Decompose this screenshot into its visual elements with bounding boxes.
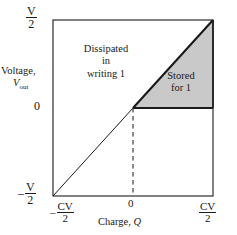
x-axis-tick-zero: 0 <box>128 198 134 210</box>
minus-sign: – <box>50 207 56 219</box>
x-axis-title: Charge, Q <box>98 216 141 227</box>
annotation-dissipated-line2: in <box>68 55 144 67</box>
minus-sign: – <box>18 187 24 200</box>
y-axis-tick-zero: 0 <box>34 100 40 113</box>
y-axis-subscript: out <box>19 83 28 91</box>
y-axis-tick-top: V 2 <box>26 5 37 30</box>
annotation-stored: Stored for 1 <box>157 70 205 95</box>
fraction-denominator: 2 <box>25 194 36 206</box>
x-axis-title-text: Charge, <box>98 216 131 227</box>
annotation-dissipated: Dissipated in writing 1 <box>68 43 144 80</box>
annotation-dissipated-line3: writing 1 <box>68 68 144 80</box>
energy-vs-charge-figure: V 2 0 – V 2 Voltage, Vout – CV 2 0 CV 2 … <box>0 0 237 235</box>
fraction-cv-over-2-negative: CV 2 <box>57 201 74 224</box>
annotation-stored-line1: Stored <box>157 70 205 82</box>
fraction-v-over-2: V 2 <box>26 5 37 30</box>
annotation-stored-line2: for 1 <box>157 82 205 94</box>
x-axis-tick-left: – CV 2 <box>50 201 74 224</box>
y-axis-title: Voltage, Vout <box>1 65 36 91</box>
y-axis-title-line2: Vout <box>13 77 36 91</box>
y-axis-title-line1: Voltage, <box>1 65 36 76</box>
fraction-denominator: 2 <box>26 18 37 30</box>
y-axis-tick-bottom: – V 2 <box>18 181 36 206</box>
fraction-denominator: 2 <box>199 213 216 224</box>
fraction-v-over-2-negative: V 2 <box>25 181 36 206</box>
annotation-dissipated-line1: Dissipated <box>68 43 144 55</box>
fraction-denominator: 2 <box>57 213 74 224</box>
x-axis-symbol: Q <box>133 216 141 227</box>
fraction-cv-over-2: CV 2 <box>199 201 216 224</box>
x-axis-tick-right: CV 2 <box>199 201 216 224</box>
